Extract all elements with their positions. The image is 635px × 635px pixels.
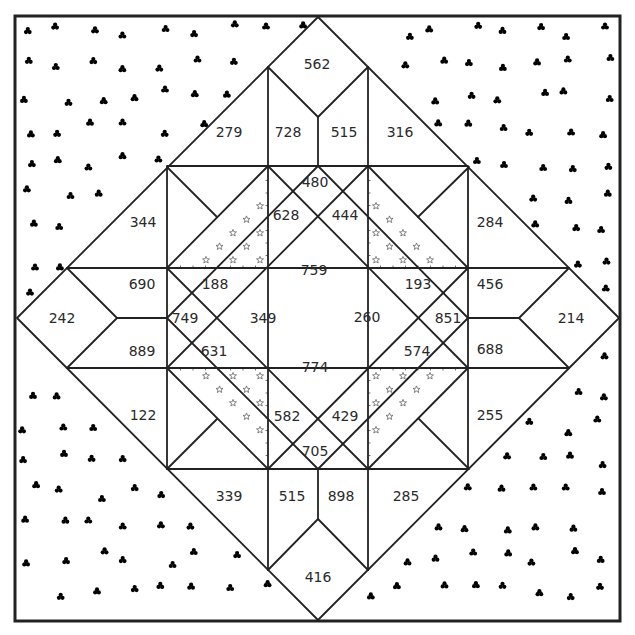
clover-icon <box>465 59 473 66</box>
star-icon <box>427 372 434 379</box>
patch-top-apex: 562 <box>304 56 331 72</box>
clover-icon <box>52 63 60 70</box>
clover-icon <box>51 23 59 30</box>
clover-icon <box>533 58 541 65</box>
clover-icon <box>84 516 92 523</box>
clover-icon <box>601 352 609 359</box>
patch-upper-right-outer: 284 <box>477 214 504 230</box>
clover-icon <box>461 525 469 532</box>
patch-center-right-top: 193 <box>405 276 432 292</box>
star-icon <box>257 202 264 209</box>
clover-icon <box>440 57 448 64</box>
star-icon <box>400 256 407 263</box>
clover-icon <box>597 556 605 563</box>
patch-bottom-right-outer: 285 <box>393 488 420 504</box>
clover-icon <box>119 522 127 529</box>
patch-left-upper-arm: 690 <box>129 276 156 292</box>
clover-icon <box>53 130 61 137</box>
clover-icon <box>593 415 601 422</box>
clover-icon <box>131 94 139 101</box>
clover-icon <box>604 190 612 197</box>
clover-icon <box>607 54 615 61</box>
clover-icon <box>503 452 511 459</box>
patch-right-upper-arm: 456 <box>477 276 504 292</box>
patch-center-top: 480 <box>302 174 329 190</box>
clover-icon <box>564 429 572 436</box>
clover-icon <box>569 165 577 172</box>
clover-icon <box>601 22 609 29</box>
clover-icon <box>91 26 99 33</box>
clover-icon <box>131 484 139 491</box>
clover-icon <box>59 423 67 430</box>
patch-lines <box>17 17 619 620</box>
clover-icon <box>89 57 97 64</box>
clover-icon <box>599 461 607 468</box>
star-icon <box>373 202 380 209</box>
clover-icon <box>231 20 239 27</box>
clover-icon <box>67 192 75 199</box>
clover-icon <box>194 55 202 62</box>
clover-icon <box>537 23 545 30</box>
star-icon <box>400 399 407 406</box>
star-icon <box>373 399 380 406</box>
clover-icon <box>530 483 538 490</box>
clover-icon <box>24 27 32 34</box>
clover-icon <box>499 582 507 589</box>
patch-top-left-outer: 279 <box>216 124 243 140</box>
clover-icon <box>504 526 512 533</box>
clover-icon <box>21 516 29 523</box>
tick-marks <box>181 181 456 456</box>
clover-icon <box>464 120 472 127</box>
clover-icon <box>119 455 127 462</box>
clover-icon <box>19 456 27 463</box>
patch-center-lower: 774 <box>302 359 329 375</box>
clover-icon <box>435 523 443 530</box>
clover-icon <box>572 224 580 231</box>
clover-icon <box>161 130 169 137</box>
clover-icon <box>65 99 73 106</box>
clover-icon <box>406 33 414 40</box>
patch-center-mid-left: 349 <box>250 310 277 326</box>
clover-icon <box>156 582 164 589</box>
clover-icon <box>528 559 536 566</box>
clover-icon <box>504 549 512 556</box>
clover-icon <box>367 592 375 599</box>
clover-icon <box>536 589 544 596</box>
clover-icon <box>119 152 127 159</box>
star-icon <box>257 399 264 406</box>
clover-icon <box>95 190 103 197</box>
clover-icon <box>468 92 476 99</box>
patch-upper-left-outer: 344 <box>130 214 157 230</box>
clover-icon <box>598 488 606 495</box>
star-icon <box>373 426 380 433</box>
clover-icon <box>529 195 537 202</box>
clover-icon <box>23 185 31 192</box>
star-icon <box>216 243 223 250</box>
patch-center-upper: 759 <box>301 262 328 278</box>
patch-labels: 562 728 515 279 316 344 284 480 628 444 … <box>49 56 585 585</box>
star-pattern <box>203 202 434 433</box>
clover-icon <box>571 547 579 554</box>
star-icon <box>373 372 380 379</box>
clover-icon <box>29 392 37 399</box>
clover-icon <box>599 131 607 138</box>
patch-center-bottom: 705 <box>302 443 329 459</box>
clover-icon <box>157 491 165 498</box>
patch-center-mid-right: 260 <box>354 309 381 325</box>
clover-icon <box>119 65 127 72</box>
clover-icon <box>101 547 109 554</box>
patch-bottom-left-of-v: 515 <box>279 488 306 504</box>
clover-icon <box>223 91 231 98</box>
star-icon <box>203 256 210 263</box>
clover-icon <box>441 581 449 588</box>
star-icon <box>400 229 407 236</box>
clover-icon <box>500 124 508 131</box>
clover-icon <box>539 453 547 460</box>
clover-icon <box>200 120 208 127</box>
star-icon <box>413 386 420 393</box>
clover-icon <box>562 33 570 40</box>
clover-icon <box>562 483 570 490</box>
star-icon <box>386 386 393 393</box>
patch-center-bottom-right: 429 <box>332 408 359 424</box>
clover-icon <box>60 450 68 457</box>
